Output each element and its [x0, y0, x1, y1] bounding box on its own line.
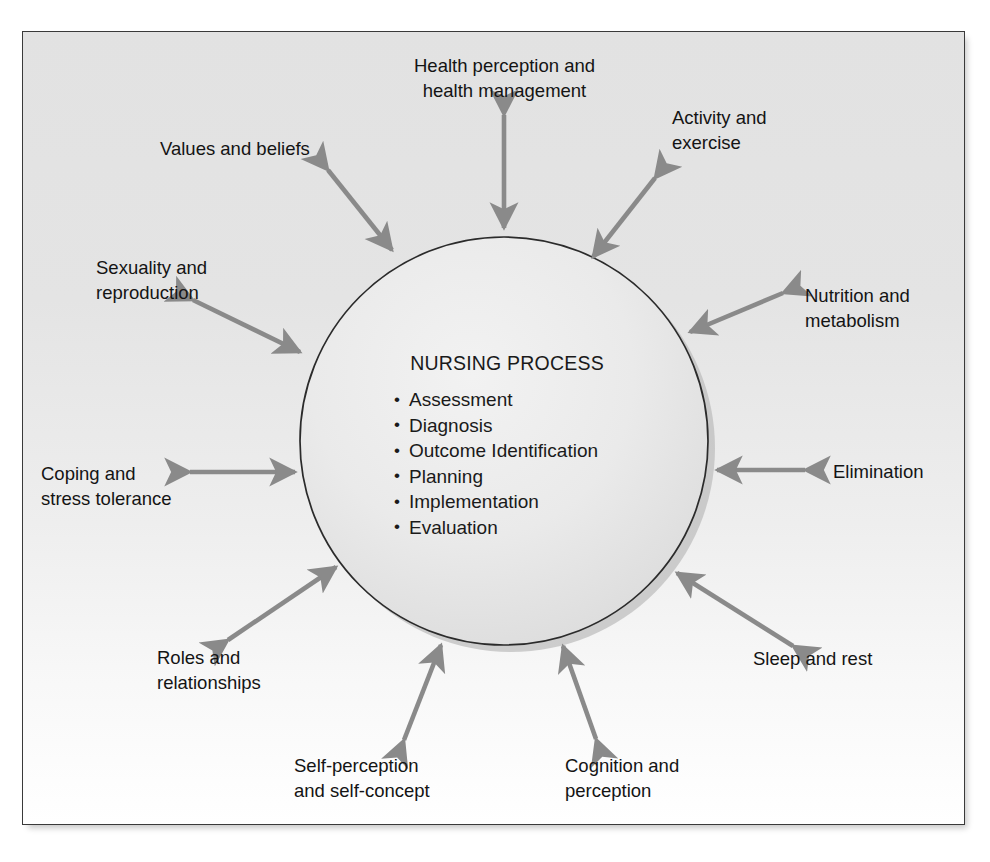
- label-roles-relationships: Roles and relationships: [157, 645, 362, 695]
- step-evaluation: Evaluation: [394, 515, 662, 541]
- label-nutrition-metabolism: Nutrition and metabolism: [805, 283, 985, 333]
- nursing-process-steps: Assessment Diagnosis Outcome Identificat…: [352, 387, 662, 540]
- step-assessment: Assessment: [394, 387, 662, 413]
- label-activity-exercise: Activity and exercise: [672, 105, 852, 155]
- label-elimination: Elimination: [833, 459, 990, 484]
- label-sexuality-reproduction: Sexuality and reproduction: [96, 255, 286, 305]
- step-planning: Planning: [394, 464, 662, 490]
- label-coping-stress: Coping and stress tolerance: [41, 461, 246, 511]
- label-health-perception: Health perception and health management: [382, 53, 627, 103]
- label-self-perception: Self-perception and self-concept: [294, 753, 509, 803]
- label-sleep-rest: Sleep and rest: [753, 646, 943, 671]
- step-outcome-identification: Outcome Identification: [394, 438, 662, 464]
- figure-root: NURSING PROCESS Assessment Diagnosis Out…: [0, 0, 990, 862]
- center-text-block: NURSING PROCESS Assessment Diagnosis Out…: [352, 352, 662, 540]
- center-title: NURSING PROCESS: [352, 352, 662, 375]
- label-cognition-perception: Cognition and perception: [565, 753, 755, 803]
- label-values-beliefs: Values and beliefs: [160, 136, 390, 161]
- step-implementation: Implementation: [394, 489, 662, 515]
- step-diagnosis: Diagnosis: [394, 413, 662, 439]
